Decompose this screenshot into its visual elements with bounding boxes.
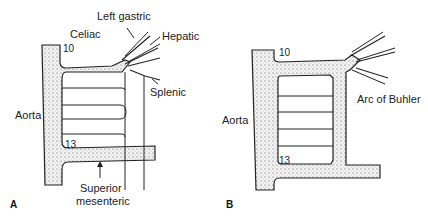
panel-b: Arc of Buhler Aorta 10 13 B [222, 32, 421, 210]
label-aorta-a: Aorta [15, 109, 42, 121]
label-arc-of-buhler: Arc of Buhler [357, 93, 421, 105]
label-hepatic: Hepatic [162, 30, 200, 42]
label-celiac: Celiac [70, 28, 101, 40]
diagram: Left gastric Celiac Hepatic Splenic Aort… [0, 0, 428, 218]
label-splenic: Splenic [150, 86, 187, 98]
label-superior: Superior [80, 182, 122, 194]
panel-letter-a: A [10, 199, 17, 210]
label-level-13-a: 13 [65, 139, 77, 150]
label-aorta-b: Aorta [222, 114, 249, 126]
label-left-gastric: Left gastric [97, 10, 151, 22]
label-mesenteric: mesenteric [76, 195, 130, 207]
panel-letter-b: B [226, 199, 233, 210]
aorta-vessel-b [252, 50, 380, 190]
label-level-10-b: 10 [279, 47, 291, 58]
label-level-10-a: 10 [63, 43, 75, 54]
panel-a: Left gastric Celiac Hepatic Splenic Aort… [10, 10, 200, 210]
label-level-13-b: 13 [279, 155, 291, 166]
